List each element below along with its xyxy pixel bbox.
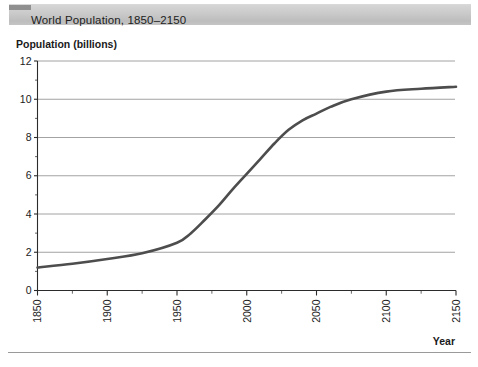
x-tick-label: 1900 [101,299,113,323]
population-curve [38,87,457,268]
x-axis-tick-labels: 1850190019502000205021002150 [31,299,462,323]
y-tick-label: 6 [26,169,32,181]
x-tick-label: 2150 [450,299,462,323]
x-tick-label: 1850 [31,299,43,323]
x-tick-label: 1950 [171,299,183,323]
x-tick-label: 2100 [380,299,392,323]
x-axis-ticks [38,291,457,296]
y-tick-label: 4 [26,208,32,220]
y-axis-tick-labels: 024681012 [20,55,32,297]
y-tick-label: 12 [20,55,32,67]
y-tick-label: 0 [26,284,32,296]
x-tick-label: 2050 [310,299,322,323]
y-tick-label: 2 [26,246,32,258]
footer-divider [8,352,471,353]
y-tick-label: 8 [26,131,32,143]
y-tick-label: 10 [20,93,32,105]
x-axis-title: Year [433,335,455,347]
population-line-chart: 024681012 1850190019502000205021002150 Y… [0,0,478,367]
x-tick-label: 2000 [241,299,253,323]
